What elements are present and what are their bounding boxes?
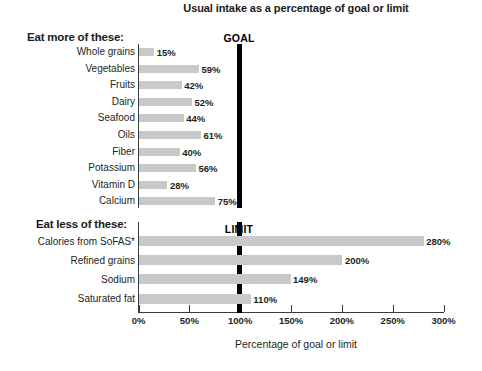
bar-category-label: Fiber [112, 147, 135, 157]
bar-value-label: 44% [186, 114, 205, 124]
x-axis-tick [291, 305, 292, 312]
plot-area: 0%50%100%150%200%250%300% GOAL LIMIT Who… [0, 0, 482, 371]
bar-value-label: 40% [182, 148, 201, 158]
bar-category-label: Sodium [101, 275, 135, 285]
bar-category-label: Saturated fat [78, 294, 135, 304]
x-axis-tick-label: 50% [180, 315, 199, 326]
bar-category-label: Fruits [110, 80, 135, 90]
bar [139, 294, 251, 304]
goal-reference-line [237, 44, 242, 208]
bar [139, 274, 291, 284]
bar [139, 131, 201, 139]
goal-label: GOAL [223, 32, 254, 44]
bar-value-label: 75% [218, 197, 237, 207]
bar-category-label: Whole grains [77, 47, 135, 57]
bar-value-label: 149% [293, 275, 317, 285]
bar-value-label: 28% [170, 181, 189, 191]
bar-category-label: Refined grains [71, 256, 135, 266]
bar-category-label: Vitamin D [92, 180, 135, 190]
bar-value-label: 61% [204, 131, 223, 141]
bar [139, 114, 184, 122]
x-axis-tick [444, 305, 445, 312]
x-axis-line [138, 312, 444, 313]
bar-value-label: 110% [253, 295, 277, 305]
bar-value-label: 42% [184, 81, 203, 91]
x-axis-tick [139, 305, 140, 312]
bar [139, 181, 167, 189]
bar [139, 65, 199, 73]
bar-value-label: 59% [202, 65, 221, 75]
x-axis-caption: Percentage of goal or limit [110, 338, 482, 350]
x-axis-tick [342, 305, 343, 312]
bar-category-label: Calories from SoFAS* [38, 237, 135, 247]
limit-label: LIMIT [225, 223, 253, 235]
bar-category-label: Dairy [112, 97, 135, 107]
x-axis-tick-label: 150% [279, 315, 303, 326]
bar-category-label: Oils [118, 130, 135, 140]
bar-value-label: 280% [426, 237, 450, 247]
bar-category-label: Potassium [88, 163, 135, 173]
x-axis-tick-label: 250% [381, 315, 405, 326]
bar-value-label: 200% [345, 256, 369, 266]
intake-percentage-chart: Usual intake as a percentage of goal or … [0, 0, 482, 371]
x-axis-tick-label: 300% [431, 315, 455, 326]
bar-category-label: Calcium [99, 196, 135, 206]
bar-value-label: 56% [198, 164, 217, 174]
x-axis-tick-label: 200% [330, 315, 354, 326]
bar [139, 236, 424, 246]
x-axis-tick-label: 0% [132, 315, 146, 326]
bar-category-label: Seafood [98, 113, 135, 123]
bar-value-label: 52% [194, 98, 213, 108]
bar [139, 48, 154, 56]
x-axis-tick-label: 100% [228, 315, 252, 326]
bar-category-label: Vegetables [86, 64, 136, 74]
bar [139, 197, 215, 205]
x-axis-tick [189, 305, 190, 312]
bar [139, 148, 180, 156]
x-axis-tick [393, 305, 394, 312]
bar [139, 255, 342, 265]
bar [139, 164, 196, 172]
bar [139, 98, 192, 106]
bar-value-label: 15% [157, 48, 176, 58]
bar [139, 81, 182, 89]
